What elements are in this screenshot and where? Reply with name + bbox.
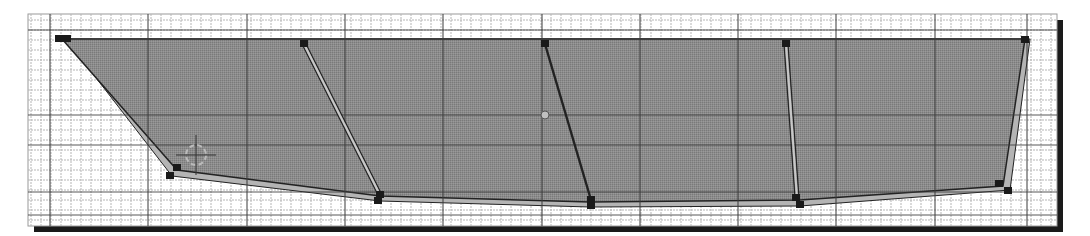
vertex-station-2-top[interactable] <box>541 40 549 47</box>
pivot-circle <box>541 111 549 119</box>
shadow-right <box>1057 20 1063 232</box>
vertex-stern-bottom-b[interactable] <box>1004 187 1012 194</box>
vertex-station-3-bottom-b[interactable] <box>796 201 804 208</box>
shadow-bottom <box>34 226 1063 232</box>
vertex-bow-bottom-a[interactable] <box>173 164 181 171</box>
viewport-canvas[interactable] <box>0 0 1090 236</box>
vertex-station-3-top[interactable] <box>782 40 790 47</box>
vertex-bow-bottom-b[interactable] <box>166 172 174 179</box>
vertex-station-1-bottom[interactable] <box>376 191 384 198</box>
object-origin-pivot-icon <box>541 111 549 119</box>
vertex-stern-top[interactable] <box>1021 36 1029 43</box>
vertex-station-2-bottom-b[interactable] <box>587 202 595 209</box>
vertex-station-2-bottom[interactable] <box>587 196 595 203</box>
vertex-station-1-bottom-b[interactable] <box>374 197 382 204</box>
vertex-station-3-bottom[interactable] <box>792 194 800 201</box>
vertex-bow-top-b[interactable] <box>63 35 71 42</box>
vertex-stern-bottom-a[interactable] <box>995 180 1003 187</box>
vertex-bow-top-a[interactable] <box>55 35 63 42</box>
vertex-station-1-top[interactable] <box>300 40 308 47</box>
modeling-viewport[interactable] <box>0 0 1090 236</box>
